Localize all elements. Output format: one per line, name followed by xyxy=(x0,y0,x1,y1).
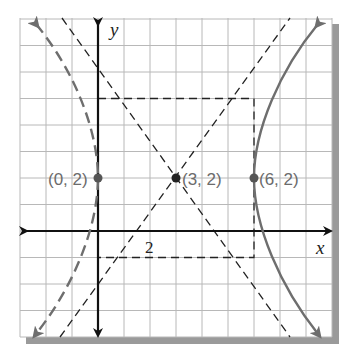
vertex-left-point xyxy=(94,174,103,183)
x-tick-label-2: 2 xyxy=(145,238,154,257)
vertex-right-label: (6, 2) xyxy=(259,170,299,189)
x-axis-label: x xyxy=(315,237,325,258)
vertex-left-label: (0, 2) xyxy=(48,170,88,189)
hyperbola-graph: (0, 2) (3, 2) (6, 2) y x 2 xyxy=(0,0,352,357)
vertex-right-point xyxy=(250,174,259,183)
center-label: (3, 2) xyxy=(182,170,222,189)
center-point xyxy=(172,174,181,183)
y-axis-label: y xyxy=(108,19,119,40)
